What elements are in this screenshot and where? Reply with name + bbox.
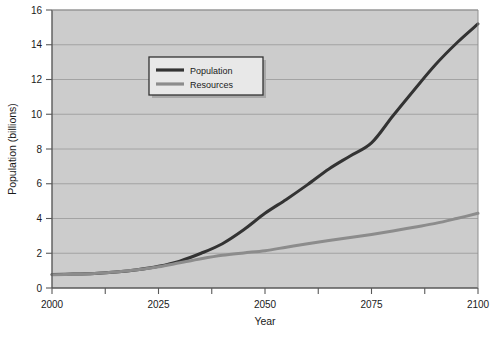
y-axis-title: Population (billions): [6, 103, 18, 195]
y-tick-label-12: 12: [31, 74, 43, 85]
y-tick-label-4: 4: [36, 213, 42, 224]
chart-legend[interactable]: Population Resources: [149, 57, 266, 98]
legend-label-resources: Resources: [190, 80, 234, 90]
x-tick-label-2075: 2075: [360, 299, 383, 310]
x-tick-label-2000: 2000: [41, 299, 64, 310]
x-tick-label-2025: 2025: [147, 299, 170, 310]
y-tick-label-16: 16: [31, 5, 43, 16]
y-tick-label-10: 10: [31, 109, 43, 120]
chart-figure: 20002025205020752100 0246810121416 Year …: [0, 0, 496, 340]
x-tick-label-2100: 2100: [467, 299, 490, 310]
y-tick-label-6: 6: [36, 178, 42, 189]
population-resources-line-chart: 20002025205020752100 0246810121416 Year …: [0, 0, 496, 340]
x-tick-label-2050: 2050: [254, 299, 277, 310]
y-tick-label-8: 8: [36, 144, 42, 155]
x-axis-title: Year: [254, 315, 276, 327]
y-tick-label-14: 14: [31, 39, 43, 50]
y-tick-label-2: 2: [36, 248, 42, 259]
legend-label-population: Population: [190, 66, 233, 76]
y-tick-label-0: 0: [36, 283, 42, 294]
